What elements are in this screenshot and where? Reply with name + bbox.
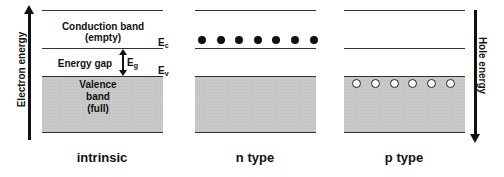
hole-icon — [371, 79, 380, 88]
ec-line — [42, 48, 163, 49]
eg-label: Eg — [127, 57, 143, 71]
ec-line — [344, 48, 465, 49]
ev-label: Ev — [158, 65, 174, 79]
arrow-down-icon — [470, 134, 480, 143]
valence-band-bottom-line — [42, 132, 163, 133]
ev-line — [42, 76, 163, 77]
electron-energy-label: Electron energy — [16, 25, 27, 115]
ev-line — [195, 76, 316, 77]
intrinsic-label: intrinsic — [42, 150, 162, 165]
hole-icon — [352, 79, 361, 88]
electron-icon — [254, 36, 262, 44]
hole-icon — [446, 79, 455, 88]
valence-band-label: Valence band (full) — [68, 79, 128, 115]
electron-icon — [272, 36, 280, 44]
electron-icon — [291, 36, 299, 44]
hole-icon — [390, 79, 399, 88]
hole-energy-label: Hole energy — [477, 31, 488, 101]
electron-icon — [235, 36, 243, 44]
hole-icon — [408, 79, 417, 88]
valence-band — [195, 76, 316, 132]
eg-arrow-shaft — [122, 54, 124, 71]
conduction-band-top-line — [195, 10, 316, 11]
valence-band-bottom-line — [195, 132, 316, 133]
arrow-up-icon — [24, 5, 34, 14]
hole-icon — [427, 79, 436, 88]
ev-line — [344, 76, 465, 77]
n-type-label: n type — [195, 150, 315, 165]
eg-arrow-down-icon — [119, 70, 127, 76]
conduction-band-top-line — [42, 10, 163, 11]
ec-line — [195, 48, 316, 49]
conduction-band-top-line — [344, 10, 465, 11]
electron-energy-arrow — [28, 12, 31, 140]
valence-band-bottom-line — [344, 132, 465, 133]
electron-icon — [217, 36, 225, 44]
conduction-band-label: Conduction band (empty) — [48, 21, 158, 43]
p-type-label: p type — [344, 150, 464, 165]
ec-label: Ec — [158, 37, 174, 51]
electron-icon — [310, 36, 318, 44]
electron-icon — [198, 36, 206, 44]
energy-gap-label: Energy gap — [50, 58, 120, 69]
